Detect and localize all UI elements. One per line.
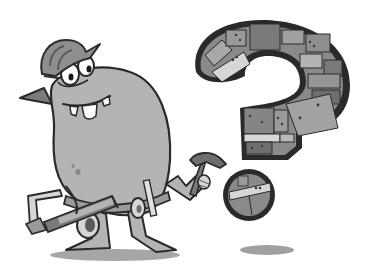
- illustration: Cartoon monster construction worker with…: [0, 0, 371, 278]
- illustration-svg: [0, 0, 371, 278]
- question-mark-icon: [195, 20, 350, 160]
- question-mark-ground-shadow: [240, 245, 294, 255]
- tooth-icon: [70, 106, 78, 116]
- tooth-icon: [82, 104, 97, 119]
- horn-icon: [20, 88, 52, 104]
- question-mark-dot: [223, 169, 275, 221]
- hammer-icon: [190, 153, 226, 196]
